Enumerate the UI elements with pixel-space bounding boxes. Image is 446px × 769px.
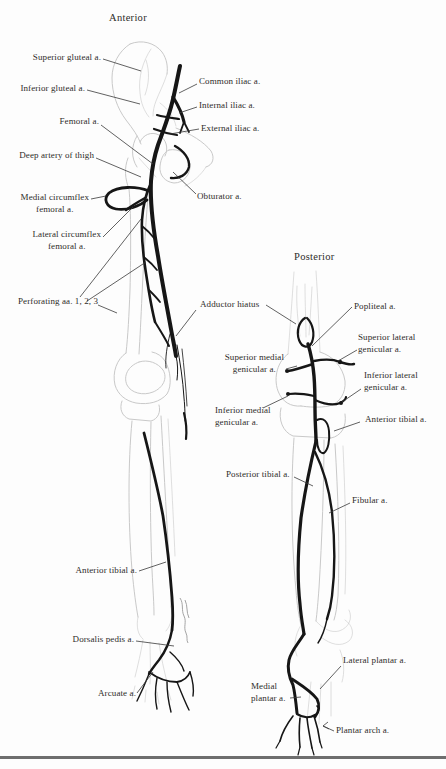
label-arcuate-artery: Arcuate a. bbox=[98, 688, 136, 700]
label-anterior-tibial-artery-posterior: Anterior tibial a. bbox=[365, 414, 427, 426]
anterior-tibial-artery-posterior-view bbox=[317, 419, 329, 453]
label-anterior-tibial-artery-anterior: Anterior tibial a. bbox=[75, 565, 137, 577]
superior-lateral-genicular-artery bbox=[314, 360, 354, 365]
anatomy-figure-page: Anterior Posterior Superior gluteal a. I… bbox=[0, 0, 446, 769]
label-external-iliac-artery: External iliac a. bbox=[201, 123, 259, 135]
posterior-tibial-at-ankle bbox=[288, 634, 304, 713]
arcuate-artery bbox=[149, 672, 190, 682]
inferior-medial-genicular-artery bbox=[289, 394, 314, 396]
label-perforating-arteries: Perforating aa. 1, 2, 3 bbox=[18, 296, 98, 308]
label-internal-iliac-artery: Internal iliac a. bbox=[199, 100, 255, 112]
artist-signature bbox=[180, 598, 189, 643]
posterior-skeleton bbox=[276, 271, 352, 724]
posterior-view-title: Posterior bbox=[294, 251, 335, 263]
label-medial-circumflex-femoral-artery: Medial circumflex femoral a. bbox=[21, 192, 89, 215]
anterior-arteries bbox=[106, 66, 193, 712]
label-fibular-artery: Fibular a. bbox=[352, 495, 388, 507]
posterior-tibial-artery bbox=[298, 441, 316, 634]
label-deep-artery-of-thigh: Deep artery of thigh bbox=[19, 150, 94, 162]
label-posterior-tibial-artery: Posterior tibial a. bbox=[226, 469, 290, 481]
label-inferior-gluteal-artery: Inferior gluteal a. bbox=[20, 83, 85, 95]
label-medial-plantar-artery: Medial plantar a. bbox=[251, 681, 285, 704]
label-superior-lateral-genicular-artery: Superior lateral genicular a. bbox=[358, 332, 415, 355]
label-plantar-arch-artery: Plantar arch a. bbox=[336, 725, 389, 737]
label-superior-medial-genicular-artery: Superior medial genicular a. bbox=[225, 352, 284, 375]
label-lateral-plantar-artery: Lateral plantar a. bbox=[343, 655, 406, 667]
label-inferior-medial-genicular-artery: Inferior medial genicular a. bbox=[215, 405, 271, 428]
leader-lines bbox=[80, 59, 361, 731]
common-iliac-to-femoral-trunk bbox=[151, 66, 180, 356]
obturator-artery bbox=[171, 146, 189, 178]
label-popliteal-artery: Popliteal a. bbox=[354, 301, 396, 313]
anterior-view-title: Anterior bbox=[109, 12, 147, 24]
posterior-arteries bbox=[276, 318, 354, 755]
label-inferior-lateral-genicular-artery: Inferior lateral genicular a. bbox=[364, 370, 418, 393]
popliteal-artery bbox=[308, 344, 316, 441]
label-superior-gluteal-artery: Superior gluteal a. bbox=[33, 52, 101, 64]
anterior-skeleton bbox=[112, 42, 213, 704]
figure-bottom-rule bbox=[0, 756, 446, 759]
anterior-tibial-artery-anterior-view bbox=[144, 433, 173, 630]
label-obturator-artery: Obturator a. bbox=[197, 191, 242, 203]
label-adductor-hiatus: Adductor hiatus bbox=[200, 299, 259, 311]
label-femoral-artery: Femoral a. bbox=[60, 116, 100, 128]
label-lateral-circumflex-femoral-artery: Lateral circumflex femoral a. bbox=[32, 229, 101, 252]
label-dorsalis-pedis-artery: Dorsalis pedis a. bbox=[73, 634, 134, 646]
fibular-artery bbox=[315, 452, 334, 619]
plantar-arch-artery bbox=[297, 714, 315, 717]
label-common-iliac-artery: Common iliac a. bbox=[199, 76, 260, 88]
